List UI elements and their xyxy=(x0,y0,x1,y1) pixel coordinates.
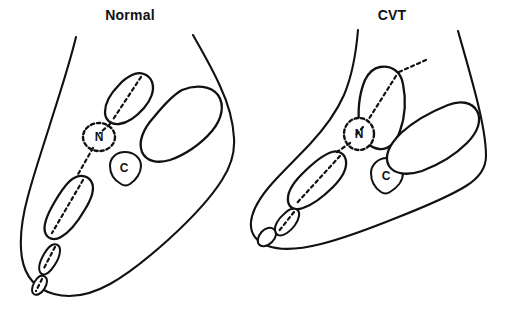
cuboid-label-cvt: C xyxy=(382,169,391,183)
cuboid-label-normal: C xyxy=(120,161,129,175)
panel-title-cvt: CVT xyxy=(378,7,407,23)
navicular-label-normal: N xyxy=(95,130,104,144)
foot-comparison-figure: Normal N C CVT xyxy=(0,0,519,311)
navicular-label-cvt: N xyxy=(355,127,364,141)
panel-title-normal: Normal xyxy=(105,7,154,23)
